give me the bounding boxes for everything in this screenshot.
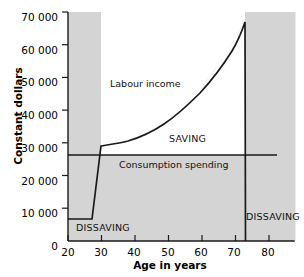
- y-tick-marks: [62, 12, 68, 208]
- chart-container: Constant dollars Age in years 70 000 60 …: [0, 0, 304, 277]
- annotation-labour-income: Labour income: [110, 78, 181, 89]
- annotation-consumption-spending: Consumption spending: [119, 159, 229, 170]
- annotation-dissaving-left: DISSAVING: [76, 222, 130, 233]
- annotation-saving: SAVING: [169, 133, 206, 144]
- plot-area: [0, 0, 304, 277]
- annotation-dissaving-right: DISSAVING: [246, 211, 300, 222]
